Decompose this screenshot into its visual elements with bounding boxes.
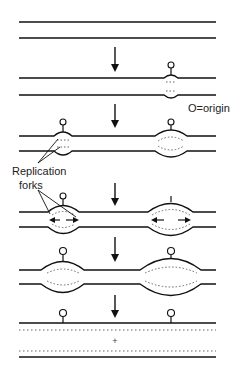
origin-legend: O=origin	[188, 102, 230, 114]
plus-sign: +	[112, 336, 117, 346]
origin-marker	[168, 248, 175, 255]
origin-marker	[168, 119, 174, 125]
stage-4-forks-moving	[19, 190, 216, 236]
origin-marker	[60, 248, 67, 255]
origin-marker	[168, 62, 174, 68]
down-arrow-1	[111, 47, 119, 72]
replication-forks-label-1: Replication	[12, 165, 66, 177]
replication-diagram: O=origin Replication forks	[0, 0, 238, 367]
down-arrow-2	[111, 104, 119, 128]
stage-6-daughter-molecules	[19, 310, 216, 358]
stage-2-single-origin	[19, 62, 216, 98]
origin-marker	[168, 310, 175, 317]
origin-marker	[60, 119, 66, 125]
down-arrow-5	[111, 295, 119, 318]
origin-marker	[60, 193, 66, 199]
down-arrow-3	[111, 183, 119, 206]
stage-1-unreplicated-dna	[19, 22, 216, 38]
origin-marker	[60, 310, 67, 317]
stage-3-two-bubbles	[19, 119, 216, 163]
replication-forks-label-2: forks	[19, 179, 43, 191]
down-arrow-4	[111, 237, 119, 262]
